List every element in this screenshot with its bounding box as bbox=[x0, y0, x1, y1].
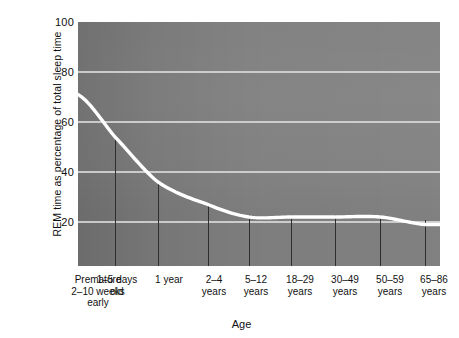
x-axis-title: Age bbox=[0, 318, 459, 330]
x-axis-categories: Premature 2–10 weeks early 1–5 days old … bbox=[78, 272, 440, 322]
x-category-30-49-years-line2: years bbox=[321, 286, 369, 298]
y-axis-title: REM time as percentage of total sleep ti… bbox=[51, 24, 63, 244]
x-category-65-86-years: 65–86 years bbox=[410, 274, 458, 297]
x-category-2-4-years: 2–4 years bbox=[191, 274, 237, 297]
x-category-5-12-years: 5–12 years bbox=[233, 274, 279, 297]
x-category-18-29-years-line2: years bbox=[276, 286, 324, 298]
x-category-50-59-years-line2: years bbox=[366, 286, 414, 298]
x-category-18-29-years-line1: 18–29 bbox=[276, 274, 324, 286]
x-category-1-5-days: 1–5 days old bbox=[86, 274, 148, 297]
x-category-premature-line3: early bbox=[56, 297, 140, 309]
x-category-1-year-line1: 1 year bbox=[144, 274, 194, 286]
x-category-5-12-years-line1: 5–12 bbox=[233, 274, 279, 286]
x-category-50-59-years: 50–59 years bbox=[366, 274, 414, 297]
x-category-65-86-years-line1: 65–86 bbox=[410, 274, 458, 286]
y-axis-title-host: REM time as percentage of total sleep ti… bbox=[30, 0, 31, 1]
x-axis-title-text: Age bbox=[232, 318, 252, 330]
chart-figure: 100 80 60 40 20 REM time as percentage o… bbox=[0, 0, 459, 338]
x-category-50-59-years-line1: 50–59 bbox=[366, 274, 414, 286]
x-category-2-4-years-line1: 2–4 bbox=[191, 274, 237, 286]
x-category-18-29-years: 18–29 years bbox=[276, 274, 324, 297]
x-category-1-5-days-line1: 1–5 days bbox=[86, 274, 148, 286]
x-category-5-12-years-line2: years bbox=[233, 286, 279, 298]
x-category-30-49-years: 30–49 years bbox=[321, 274, 369, 297]
x-category-1-year: 1 year bbox=[144, 274, 194, 286]
rem-curve bbox=[78, 22, 440, 266]
x-category-1-5-days-line2: old bbox=[86, 286, 148, 298]
x-category-2-4-years-line2: years bbox=[191, 286, 237, 298]
plot-area bbox=[78, 22, 440, 266]
x-category-30-49-years-line1: 30–49 bbox=[321, 274, 369, 286]
x-category-65-86-years-line2: years bbox=[410, 286, 458, 298]
